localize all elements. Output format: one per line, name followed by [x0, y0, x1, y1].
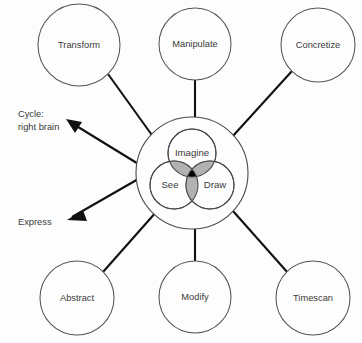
annotation-texts: Cycle: right brain Express	[18, 109, 59, 227]
venn-label-see: See	[161, 179, 178, 190]
arrow-head-cycle	[66, 119, 82, 133]
arrow-line-cycle	[70, 122, 140, 165]
diagram-canvas: Imagine See Draw Transform Manipulate Co…	[0, 0, 362, 343]
satellite-label-transform: Transform	[58, 40, 100, 50]
annotation-cycle-line1: Cycle:	[18, 109, 44, 119]
connector-abstract	[103, 211, 157, 272]
venn-label-imagine: Imagine	[175, 147, 209, 158]
connector-transform	[108, 74, 154, 138]
satellite-label-abstract: Abstract	[60, 293, 95, 303]
satellite-node-manipulate[interactable]: Manipulate	[159, 8, 231, 80]
annotation-arrows	[66, 119, 140, 221]
annotation-cycle-line2: right brain	[18, 122, 59, 132]
connector-concretize	[232, 71, 292, 137]
satellite-node-abstract[interactable]: Abstract	[40, 261, 114, 335]
satellite-node-concretize[interactable]: Concretize	[281, 8, 355, 82]
satellite-node-modify[interactable]: Modify	[159, 261, 231, 333]
satellite-label-timescan: Timescan	[293, 293, 333, 303]
arrow-head-express	[67, 210, 87, 221]
annotation-express: Express	[18, 217, 52, 227]
satellite-label-concretize: Concretize	[296, 40, 340, 50]
satellite-label-manipulate: Manipulate	[172, 39, 217, 49]
satellite-node-transform[interactable]: Transform	[38, 4, 120, 86]
venn-label-draw: Draw	[204, 179, 226, 190]
satellite-node-timescan[interactable]: Timescan	[276, 261, 350, 335]
creative-cycle-diagram: Imagine See Draw Transform Manipulate Co…	[0, 0, 362, 343]
connector-timescan	[233, 211, 288, 273]
satellite-label-modify: Modify	[181, 292, 209, 302]
